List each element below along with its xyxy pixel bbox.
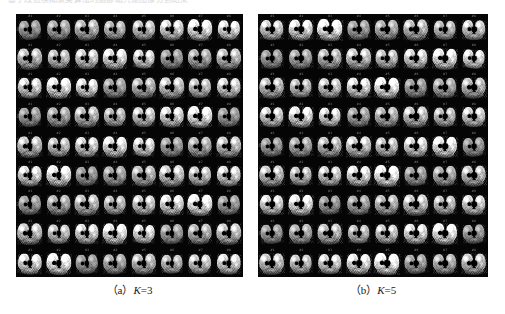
mri-slice-cell: #7 xyxy=(431,14,460,43)
brain-ventricle-secondary xyxy=(52,173,55,177)
brain-cerebellum xyxy=(78,150,96,157)
brain-slice-render xyxy=(346,253,372,275)
slice-index-label: #7 xyxy=(443,160,447,164)
slice-index-label: #6 xyxy=(170,72,174,76)
mri-slice-cell: #2 xyxy=(44,131,72,160)
brain-slice-render xyxy=(160,136,184,157)
brain-slice-render xyxy=(432,48,458,70)
brain-ventricle xyxy=(414,173,418,178)
brain-cerebellum xyxy=(436,121,453,127)
mri-slice-cell: #2 xyxy=(44,160,72,189)
brain-ventricle-secondary xyxy=(80,27,83,31)
brain-slice-render xyxy=(318,78,342,98)
slice-index-label: #8 xyxy=(471,189,475,193)
brain-ventricle-secondary xyxy=(410,144,413,148)
brain-cerebellum xyxy=(321,63,340,70)
brain-cerebellum xyxy=(436,180,454,187)
brain-ventricle xyxy=(414,260,418,265)
brain-cerebellum xyxy=(78,91,95,98)
mri-slice-cell: #1R5 xyxy=(258,131,287,160)
mri-slice-cell: #4 xyxy=(344,248,373,277)
brain-slice-render xyxy=(433,196,456,215)
brain-ventricle-secondary xyxy=(109,261,112,265)
brain-cerebellum xyxy=(379,238,396,245)
mri-slice-cell: #5 xyxy=(373,248,402,277)
mri-slice-cell: #2 xyxy=(287,219,316,248)
brain-slice-render xyxy=(131,253,156,274)
slice-row-label: R8 xyxy=(16,231,20,235)
brain-cerebellum xyxy=(436,209,453,216)
slice-index-label: #6 xyxy=(170,14,174,18)
brain-slice-render xyxy=(432,78,457,99)
brain-slice-render xyxy=(159,194,184,215)
slice-index-label: #2 xyxy=(299,102,303,106)
brain-ventricle-secondary xyxy=(24,261,27,265)
brain-ventricle-secondary xyxy=(467,261,470,265)
mri-slice-cell: #4 xyxy=(101,160,129,189)
brain-cerebellum xyxy=(78,63,96,70)
slice-index-label: #5 xyxy=(141,219,145,223)
mri-slice-cell: #5 xyxy=(130,160,158,189)
mri-slice-cell: #1R7 xyxy=(258,189,287,218)
brain-ventricle-secondary xyxy=(81,56,84,60)
brain-cerebellum xyxy=(191,34,210,42)
mri-slice-cell: #6 xyxy=(158,72,186,101)
slice-index-label: #3 xyxy=(85,43,89,47)
brain-slice-render xyxy=(375,19,400,40)
brain-slice-render xyxy=(75,253,99,273)
brain-slice-render xyxy=(462,137,486,157)
brain-ventricle-secondary xyxy=(165,173,168,177)
slice-row-label: R5 xyxy=(16,143,20,147)
mri-slice-cell: #4 xyxy=(101,189,129,218)
brain-cerebellum xyxy=(50,63,67,69)
brain-ventricle xyxy=(443,27,447,32)
slice-index-label: #4 xyxy=(356,219,360,223)
mri-slice-cell: #5 xyxy=(130,219,158,248)
brain-ventricle xyxy=(443,202,447,207)
brain-cerebellum xyxy=(350,33,368,40)
brain-cerebellum xyxy=(50,238,67,245)
mri-slice-cell: #1R1 xyxy=(16,14,44,43)
brain-slice-render xyxy=(461,195,486,216)
brain-cerebellum xyxy=(78,34,97,42)
brain-slice-render xyxy=(217,107,241,127)
slice-index-label: #7 xyxy=(198,102,202,106)
brain-slice-render xyxy=(347,225,369,243)
panel-b-caption-prefix: （b） xyxy=(350,284,378,296)
mri-slice-cell: #3 xyxy=(73,248,101,277)
brain-ventricle xyxy=(57,56,61,61)
brain-cerebellum xyxy=(21,92,39,99)
brain-ventricle xyxy=(472,172,476,178)
mri-slice-cell: #3 xyxy=(316,102,345,131)
mri-slice-cell: #1R7 xyxy=(16,189,44,218)
slice-row-label: R7 xyxy=(258,202,262,206)
mri-slice-cell: #4 xyxy=(101,248,129,277)
brain-ventricle xyxy=(57,26,61,31)
brain-slice-render xyxy=(403,194,429,216)
brain-slice-render xyxy=(102,223,128,245)
slice-index-label: #3 xyxy=(328,102,332,106)
brain-ventricle-secondary xyxy=(53,144,55,147)
brain-ventricle xyxy=(472,85,476,90)
brain-ventricle xyxy=(357,260,361,266)
brain-cerebellum xyxy=(464,180,483,187)
brain-slice-render xyxy=(432,253,457,274)
mri-slice-cell: #6 xyxy=(158,131,186,160)
brain-cerebellum xyxy=(106,238,125,246)
mri-slice-cell: #2 xyxy=(44,14,72,43)
brain-ventricle-secondary xyxy=(223,27,226,31)
brain-slice-render xyxy=(260,107,285,127)
slice-index-label: #7 xyxy=(443,14,447,18)
mri-slice-cell: #4 xyxy=(344,219,373,248)
brain-cerebellum xyxy=(107,33,123,39)
brain-cerebellum xyxy=(378,209,396,216)
mri-slice-cell: #1R3 xyxy=(16,72,44,101)
brain-slice-render xyxy=(104,196,126,215)
slice-index-label: #4 xyxy=(356,43,360,47)
slice-index-label: #5 xyxy=(141,160,145,164)
brain-ventricle-secondary xyxy=(438,56,441,60)
brain-ventricle xyxy=(328,202,332,207)
mri-slice-cell: #1R9 xyxy=(258,248,287,277)
brain-slice-render xyxy=(259,253,285,274)
mri-slice-cell: #4 xyxy=(344,102,373,131)
